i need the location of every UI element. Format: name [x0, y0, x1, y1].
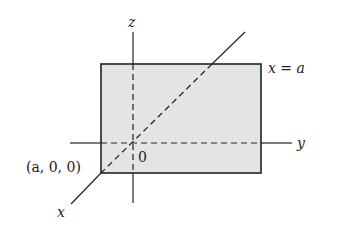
point-label: (a, 0, 0)	[26, 159, 81, 175]
origin-label: 0	[138, 149, 147, 165]
y-axis-label: y	[296, 135, 306, 151]
plane-label: x = a	[268, 60, 305, 76]
plane-x-equals-a	[101, 64, 261, 173]
x-axis-label: x	[57, 204, 65, 220]
plane-diagram: z y x x = a 0 (a, 0, 0)	[0, 0, 342, 242]
z-axis-label: z	[127, 14, 136, 30]
